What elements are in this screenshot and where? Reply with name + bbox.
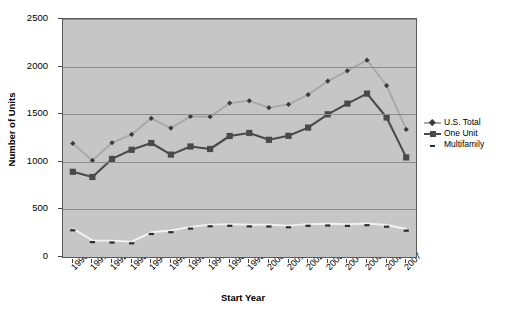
y-tick-label: 500 <box>8 202 48 213</box>
data-point <box>247 225 252 227</box>
data-point <box>344 101 350 107</box>
data-point <box>149 233 154 235</box>
data-point <box>227 133 233 139</box>
legend-swatch-icon <box>424 118 441 127</box>
data-point <box>404 230 409 232</box>
data-point <box>364 91 370 97</box>
data-point <box>384 114 390 120</box>
data-point <box>109 241 114 243</box>
data-point <box>207 146 213 152</box>
data-point <box>305 125 311 131</box>
data-point <box>187 143 193 149</box>
data-point <box>266 225 271 227</box>
legend-item[interactable]: Multifamily <box>424 139 484 149</box>
grid-line <box>63 209 416 210</box>
data-point <box>227 225 232 227</box>
series-line <box>73 94 406 177</box>
data-point <box>168 152 174 158</box>
y-axis-title: Number of Units <box>6 75 17 185</box>
data-point <box>285 133 291 139</box>
data-point <box>208 225 213 227</box>
data-point <box>384 226 389 228</box>
data-point <box>403 154 409 160</box>
legend-label: One Unit <box>444 128 478 138</box>
data-point <box>129 242 134 244</box>
data-point <box>306 225 311 227</box>
legend-swatch-icon <box>424 129 441 138</box>
chart-legend: U.S. TotalOne UnitMultifamily <box>424 117 484 150</box>
y-tick-label: 1000 <box>8 155 48 166</box>
data-point <box>246 130 252 136</box>
data-point <box>90 241 95 243</box>
legend-label: Multifamily <box>444 139 484 149</box>
legend-swatch-icon <box>424 140 441 149</box>
grid-line <box>63 114 416 115</box>
data-point <box>247 98 252 103</box>
y-tick-label: 1500 <box>8 107 48 118</box>
data-point <box>70 169 76 175</box>
data-point <box>286 226 291 228</box>
x-axis-title: Start Year <box>178 292 308 303</box>
data-point <box>325 224 330 226</box>
line-chart: Number of Units Start Year 0500100015002… <box>0 0 506 315</box>
y-tick-label: 2000 <box>8 60 48 71</box>
grid-line <box>63 67 416 68</box>
legend-item[interactable]: One Unit <box>424 128 484 138</box>
data-point <box>148 140 154 146</box>
legend-label: U.S. Total <box>444 117 481 127</box>
plot-area <box>62 18 417 258</box>
grid-line <box>63 162 416 163</box>
data-point <box>168 231 173 233</box>
y-tick-label: 2500 <box>8 12 48 23</box>
data-point <box>345 225 350 227</box>
data-point <box>188 228 193 230</box>
series-line <box>73 224 406 242</box>
data-point <box>266 137 272 143</box>
data-point <box>89 174 95 180</box>
grid-line <box>63 19 416 20</box>
series-line <box>73 60 406 160</box>
data-point <box>266 105 271 110</box>
series-layer <box>63 19 416 257</box>
y-tick-label: 0 <box>8 250 48 261</box>
data-point <box>364 224 369 226</box>
data-point <box>70 229 75 231</box>
legend-item[interactable]: U.S. Total <box>424 117 484 127</box>
data-point <box>129 147 135 153</box>
